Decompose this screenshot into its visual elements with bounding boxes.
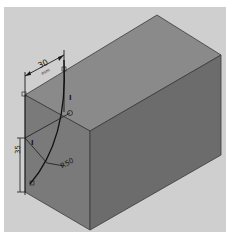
arrowhead-right (58, 55, 64, 61)
constraint-marker-2: I (31, 139, 34, 147)
constraint-marker-1: I (69, 94, 72, 102)
isometric-box-drawing: 30 mm 35 R50 I I (0, 0, 231, 238)
arrowhead-left (25, 71, 31, 76)
height-dimension-label: 35 (14, 145, 22, 154)
